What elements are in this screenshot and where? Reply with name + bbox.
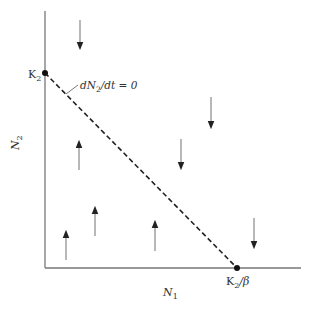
isocline-dashed-line xyxy=(45,73,237,268)
axes xyxy=(45,11,301,268)
y-axis-label: N2 xyxy=(9,135,24,151)
k2-label: K2 xyxy=(28,68,41,83)
k2-point xyxy=(42,70,48,76)
arrows-down xyxy=(80,20,254,245)
isocline-label: dN2/dt = 0 xyxy=(80,79,138,94)
arrows-up xyxy=(66,144,155,260)
k2-beta-point xyxy=(234,265,240,271)
x-axis-label: N1 xyxy=(162,286,178,301)
phase-plane-diagram: K2 dN2/dt = 0 K2/β N1 N2 xyxy=(0,0,312,311)
k2-beta-label: K2/β xyxy=(226,275,249,290)
isocline-leader-line xyxy=(66,85,78,94)
